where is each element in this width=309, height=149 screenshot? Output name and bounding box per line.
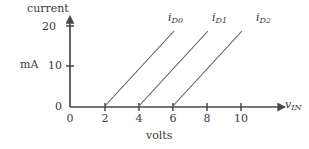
y-tick-label-20: 20 (42, 21, 56, 32)
x-axis-title: volts (146, 130, 172, 141)
x-axis-variable-subscript: IN (291, 103, 301, 112)
y-tick-label-10: 10 (48, 60, 62, 71)
y-axis-title: current (27, 3, 69, 14)
x-tick-label-2: 2 (102, 113, 109, 124)
curve-label-iD1-base: i (212, 11, 216, 24)
curve-label-iD2-subscript: D2 (260, 16, 272, 25)
y-axis-units-label: mA (20, 59, 38, 70)
curve-label-iD0: iD0 (168, 12, 183, 23)
data-line-iD0 (104, 31, 174, 107)
x-tick-label-4: 4 (136, 113, 143, 124)
x-tick-label-0: 0 (67, 113, 74, 124)
curve-label-iD0-subscript: D0 (172, 16, 184, 25)
x-tick-label-10: 10 (234, 113, 248, 124)
curve-label-iD2-base: i (256, 11, 260, 24)
x-tick-label-6: 6 (170, 113, 177, 124)
x-axis-variable-label: vIN (285, 99, 301, 110)
x-tick-label-8: 8 (204, 113, 211, 124)
data-line-iD2 (172, 31, 242, 107)
curve-label-iD2: iD2 (256, 12, 271, 23)
current-vs-input-voltage-chart: current mA volts 20 10 0 0 2 4 6 8 10 vI… (0, 0, 309, 149)
data-line-iD1 (138, 31, 208, 107)
y-tick-label-0: 0 (55, 101, 62, 112)
curve-label-iD0-base: i (168, 11, 172, 24)
curve-label-iD1: iD1 (212, 12, 227, 23)
curve-label-iD1-subscript: D1 (216, 16, 228, 25)
